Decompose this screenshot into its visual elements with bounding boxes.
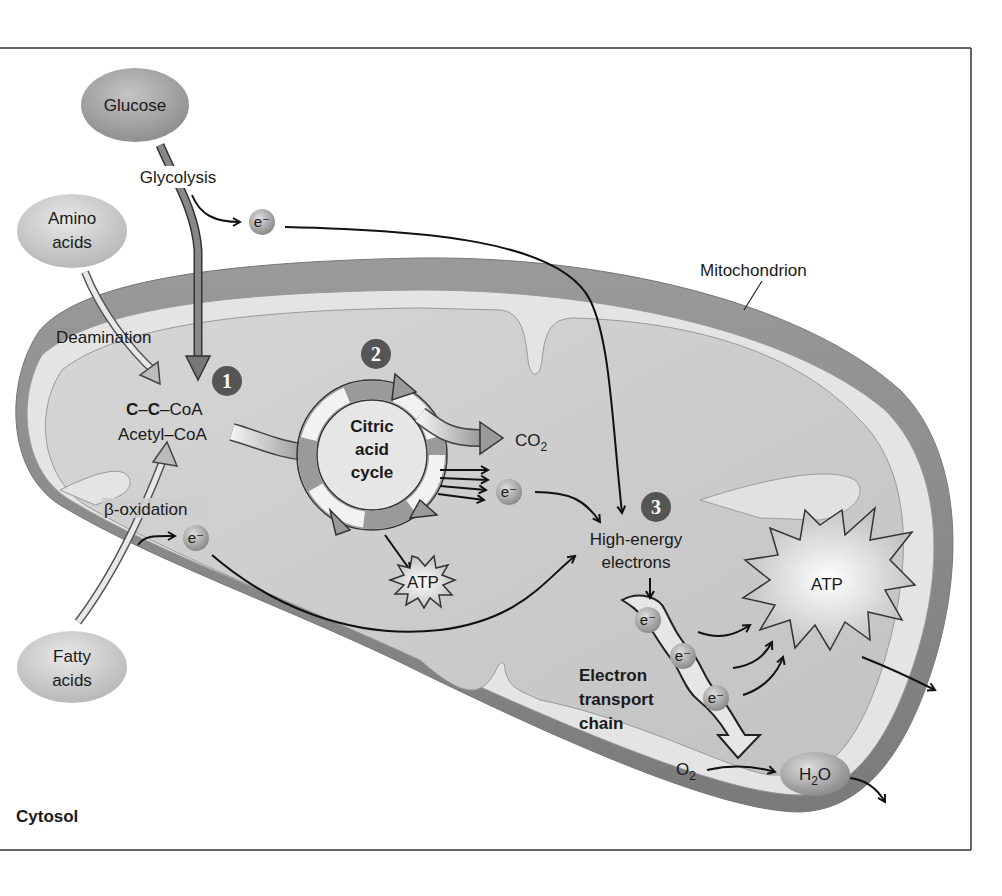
- svg-text:Fatty: Fatty: [53, 647, 91, 666]
- etc-label-line3: chain: [579, 714, 623, 733]
- etc-label-line1: Electron: [579, 666, 647, 685]
- glycolysis-label: Glycolysis: [140, 168, 217, 187]
- glucose-label: Glucose: [104, 96, 166, 115]
- etc-label-line2: transport: [579, 690, 654, 709]
- svg-text:acids: acids: [52, 233, 92, 252]
- svg-text:ATP: ATP: [407, 573, 439, 592]
- svg-text:e⁻: e⁻: [501, 483, 517, 500]
- high-energy-label-line2: electrons: [602, 553, 671, 572]
- svg-text:Amino: Amino: [48, 209, 96, 228]
- high-energy-label-line1: High-energy: [590, 530, 683, 549]
- respiration-diagram: Mitochondrion Cytosol Glucose Glycolysis…: [0, 0, 1002, 896]
- svg-text:e⁻: e⁻: [254, 213, 270, 230]
- svg-text:acid: acid: [355, 440, 389, 459]
- svg-text:acids: acids: [52, 671, 92, 690]
- acetyl-coa-label: Acetyl–CoA: [118, 425, 207, 444]
- amino-acids-node: [17, 194, 127, 268]
- svg-text:Citric: Citric: [350, 417, 393, 436]
- svg-text:e⁻: e⁻: [708, 689, 724, 706]
- glycolysis-electron-arrow: [192, 195, 240, 222]
- svg-text:e⁻: e⁻: [640, 611, 656, 628]
- fatty-acids-node: [17, 631, 127, 703]
- svg-text:ATP: ATP: [811, 575, 843, 594]
- svg-text:cycle: cycle: [351, 463, 394, 482]
- svg-text:e⁻: e⁻: [675, 647, 691, 664]
- mitochondrion-pointer: [744, 281, 762, 310]
- acetyl-coa-formula: C–C–CoA: [126, 400, 203, 419]
- cytosol-label: Cytosol: [16, 807, 78, 826]
- svg-text:e⁻: e⁻: [188, 529, 204, 546]
- svg-text:1: 1: [222, 370, 232, 392]
- svg-text:2: 2: [371, 343, 381, 365]
- svg-text:3: 3: [651, 496, 661, 518]
- beta-oxidation-label: β-oxidation: [104, 500, 188, 519]
- mitochondrion-label: Mitochondrion: [700, 261, 807, 280]
- deamination-label: Deamination: [56, 328, 151, 347]
